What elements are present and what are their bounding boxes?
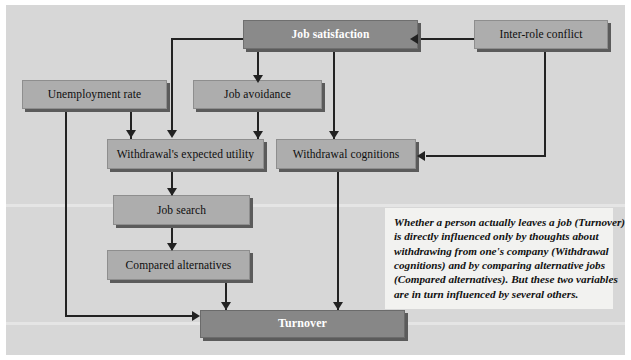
diagram-canvas: Job satisfaction Inter-role conflict Une…: [6, 5, 625, 355]
node-compared-alternatives[interactable]: Compared alternatives: [107, 250, 250, 280]
connector-conflict-to-cognitions: [426, 155, 546, 157]
node-unemployment-rate-label: Unemployment rate: [48, 88, 141, 101]
caption-line-5: (Compared alternatives). But these two v…: [394, 272, 605, 286]
caption-line-3: withdrawing from one's company (Withdraw…: [394, 244, 605, 258]
node-job-satisfaction[interactable]: Job satisfaction: [243, 20, 418, 49]
arrowhead-unemployment-to-utility: [126, 130, 136, 138]
connector-conflict-to-satisfaction: [418, 38, 474, 40]
arrowhead-conflict-to-cognitions: [417, 151, 425, 161]
node-withdrawal-expected-utility-label: Withdrawal's expected utility: [117, 148, 254, 161]
node-turnover-label: Turnover: [278, 317, 327, 330]
caption-box: Whether a person actually leaves a job (…: [385, 208, 613, 309]
node-inter-role-conflict-label: Inter-role conflict: [499, 28, 582, 41]
node-job-satisfaction-label: Job satisfaction: [292, 28, 370, 41]
caption-line-1: Whether a person actually leaves a job (…: [394, 215, 605, 229]
node-unemployment-rate[interactable]: Unemployment rate: [22, 80, 167, 109]
arrowhead-avoidance-to-cognitions: [253, 131, 263, 139]
connector-satisfaction-left: [171, 38, 248, 40]
node-turnover[interactable]: Turnover: [200, 310, 405, 338]
arrowhead-satisfaction-to-utility: [167, 130, 177, 138]
arrowhead-satisfaction-to-cognitions-direct: [329, 131, 339, 139]
caption-line-6: are in turn influenced by several others…: [394, 287, 605, 301]
connector-conflict-down: [544, 49, 546, 156]
node-job-avoidance[interactable]: Job avoidance: [193, 80, 322, 109]
connector-satisfaction-to-cognitions: [333, 49, 335, 139]
node-withdrawal-cognitions[interactable]: Withdrawal cognitions: [276, 139, 416, 169]
arrowhead-utility-to-jobsearch: [167, 188, 177, 196]
node-withdrawal-expected-utility[interactable]: Withdrawal's expected utility: [107, 139, 264, 169]
node-job-search-label: Job search: [157, 204, 206, 217]
arrowhead-satisfaction-to-avoidance: [253, 75, 263, 83]
node-compared-alternatives-label: Compared alternatives: [126, 259, 232, 272]
connector-cognitions-to-turnover: [337, 169, 339, 310]
figure-root: Job satisfaction Inter-role conflict Une…: [0, 0, 631, 360]
arrowhead-jobsearch-to-compared: [167, 243, 177, 251]
node-job-search[interactable]: Job search: [113, 195, 250, 225]
node-job-avoidance-label: Job avoidance: [224, 88, 291, 101]
caption-line-4: cognitions) and by comparing alternative…: [394, 258, 605, 272]
connector-satisfaction-down-left: [171, 38, 173, 134]
connector-unemployment-to-turnover: [65, 315, 195, 317]
connector-unemployment-down-rail: [65, 109, 67, 317]
scan-band-upper: [6, 204, 625, 207]
arrowhead-compared-to-turnover: [221, 302, 231, 310]
caption-line-2: is directly influenced only by thoughts …: [394, 229, 605, 243]
arrowhead-unemployment-to-turnover: [192, 311, 200, 321]
node-withdrawal-cognitions-label: Withdrawal cognitions: [293, 148, 400, 161]
arrowhead-conflict-to-satisfaction: [410, 34, 418, 44]
node-inter-role-conflict[interactable]: Inter-role conflict: [474, 20, 608, 49]
arrowhead-cognitions-to-turnover: [333, 302, 343, 310]
